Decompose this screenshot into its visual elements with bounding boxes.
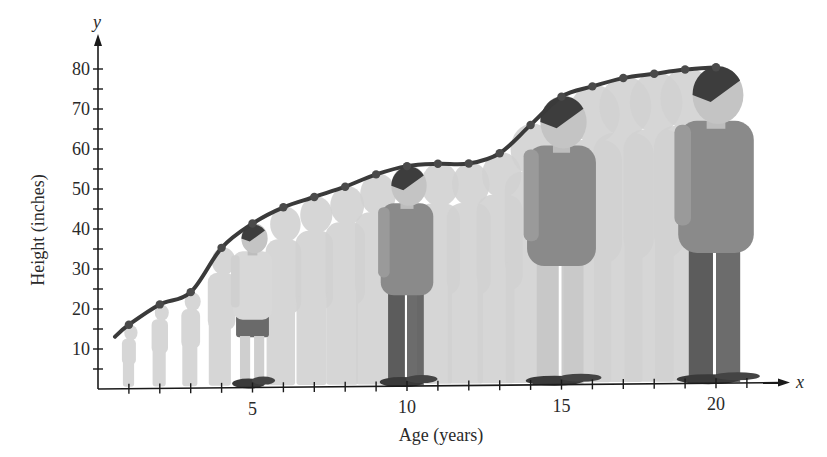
data-point-marker bbox=[187, 288, 195, 296]
x-tick-label: 20 bbox=[707, 394, 725, 414]
x-axis-arrow-icon bbox=[778, 379, 790, 387]
data-point-marker bbox=[403, 162, 411, 170]
silhouette-person-icon bbox=[122, 325, 138, 387]
silhouette-person-icon bbox=[152, 305, 169, 387]
data-point-marker bbox=[434, 160, 442, 168]
x-tick-label: 5 bbox=[248, 399, 257, 419]
y-tick-label: 80 bbox=[72, 59, 90, 79]
data-point-marker bbox=[125, 321, 133, 329]
x-axis-label: Age (years) bbox=[399, 425, 483, 446]
data-point-marker bbox=[526, 121, 534, 129]
data-point-marker bbox=[588, 82, 596, 90]
data-point-marker bbox=[310, 193, 318, 201]
y-tick-label: 20 bbox=[72, 299, 90, 319]
y-tick-label: 50 bbox=[72, 179, 90, 199]
data-point-marker bbox=[279, 203, 287, 211]
data-point-marker bbox=[712, 63, 720, 71]
data-point-marker bbox=[248, 219, 256, 227]
x-tick-label: 15 bbox=[553, 396, 571, 416]
data-point-marker bbox=[372, 170, 380, 178]
data-point-marker bbox=[217, 244, 225, 252]
height-vs-age-chart: 10203040506070805101520 Height (inches) … bbox=[0, 0, 827, 457]
y-axis-letter: y bbox=[91, 12, 101, 32]
y-axis-arrow-icon bbox=[94, 34, 102, 46]
y-tick-label: 60 bbox=[72, 139, 90, 159]
y-tick-label: 30 bbox=[72, 259, 90, 279]
silhouette-person-icon bbox=[181, 292, 200, 386]
y-tick-label: 10 bbox=[72, 339, 90, 359]
data-point-marker bbox=[650, 70, 658, 78]
x-tick-label: 10 bbox=[398, 397, 416, 417]
data-point-marker bbox=[557, 92, 565, 100]
data-point-marker bbox=[619, 74, 627, 82]
y-axis-label: Height (inches) bbox=[28, 174, 49, 285]
data-point-marker bbox=[341, 182, 349, 190]
y-tick-label: 70 bbox=[72, 99, 90, 119]
data-point-marker bbox=[496, 149, 504, 157]
y-tick-label: 40 bbox=[72, 219, 90, 239]
data-point-marker bbox=[681, 65, 689, 73]
data-point-marker bbox=[156, 300, 164, 308]
x-axis-letter: x bbox=[795, 372, 804, 392]
data-point-marker bbox=[465, 159, 473, 167]
